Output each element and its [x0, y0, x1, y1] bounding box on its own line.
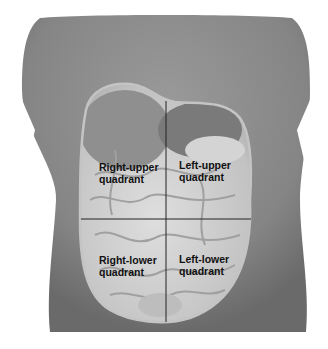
label-right-upper-quadrant: Right-upper quadrant: [99, 161, 159, 185]
torso-illustration: [0, 0, 328, 349]
label-left-upper-quadrant: Left-upper quadrant: [179, 159, 231, 183]
label-left-lower-quadrant: Left-lower quadrant: [179, 253, 229, 277]
label-right-lower-quadrant: Right-lower quadrant: [99, 254, 157, 278]
